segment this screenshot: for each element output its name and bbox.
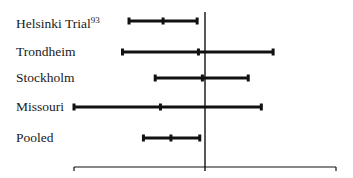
forest-plot (0, 0, 353, 178)
